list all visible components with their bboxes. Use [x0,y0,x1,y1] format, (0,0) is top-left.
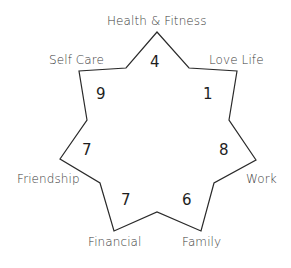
score-friendship: 7 [82,142,92,158]
score-work: 8 [219,142,229,158]
label-work: Work [246,172,277,186]
score-family: 6 [182,192,192,208]
life-balance-star-diagram: Health & Fitness Love Life Work Family F… [0,0,291,268]
star-outline [0,0,291,268]
label-friendship: Friendship [17,172,80,186]
score-financial: 7 [121,192,131,208]
label-self-care: Self Care [49,53,104,67]
score-self-care: 9 [96,86,106,102]
label-family: Family [182,235,221,249]
score-love-life: 1 [203,86,213,102]
score-health-fitness: 4 [150,54,160,70]
label-love-life: Love Life [209,53,264,67]
label-health-fitness: Health & Fitness [107,14,207,28]
label-financial: Financial [88,235,141,249]
